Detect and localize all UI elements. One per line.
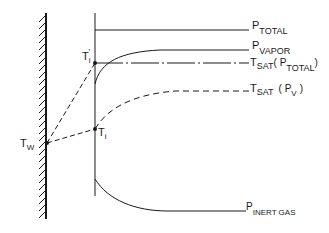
ti-prime-label: Ti' (82, 47, 91, 65)
p-total-label: PTOTAL (252, 19, 288, 36)
tw-point (45, 141, 49, 145)
ti-point (93, 127, 97, 131)
tw-label: TW (20, 137, 35, 152)
p-inert-label: PINERT GAS (246, 201, 296, 217)
p-vapor-label: PVAPOR (252, 39, 291, 56)
ti-prime-point (93, 61, 97, 65)
wall (39, 13, 46, 219)
tsat-pv-label: TSAT( PV) (250, 82, 303, 98)
tsat-ptotal-label: TSAT( PTOTAL) (250, 56, 318, 73)
tw-to-ti-line (47, 129, 95, 143)
condensation-diagram: PTOTAL PVAPOR TSAT( PTOTAL) TSAT( PV) PI… (0, 0, 329, 233)
wall-hatching (39, 15, 46, 218)
ti-label: Ti (98, 126, 107, 141)
tsat-pv-curve (95, 91, 249, 129)
p-inert-curve (95, 179, 246, 211)
p-vapor-curve (95, 50, 249, 84)
